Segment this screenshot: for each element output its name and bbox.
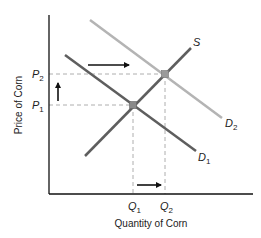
supply-label: S — [193, 36, 201, 48]
x-axis-title: Quantity of Corn — [115, 218, 188, 229]
price-p1-label: P1 — [32, 99, 44, 114]
supply-demand-diagram: S D1 D2 P2 P1 Q1 Q2 Quantity of Corn Pri… — [0, 0, 261, 238]
quantity-q1-label: Q1 — [128, 200, 142, 215]
demand-d1-label: D1 — [198, 151, 211, 166]
equilibrium-point-2 — [162, 71, 169, 78]
y-axis-title: Price of Corn — [13, 76, 24, 134]
demand-d2-label: D2 — [225, 117, 238, 132]
demand-curve-d2 — [90, 20, 222, 118]
equilibrium-point-1 — [130, 102, 137, 109]
quantity-q2-label: Q2 — [160, 200, 174, 215]
price-p2-label: P2 — [32, 68, 44, 83]
